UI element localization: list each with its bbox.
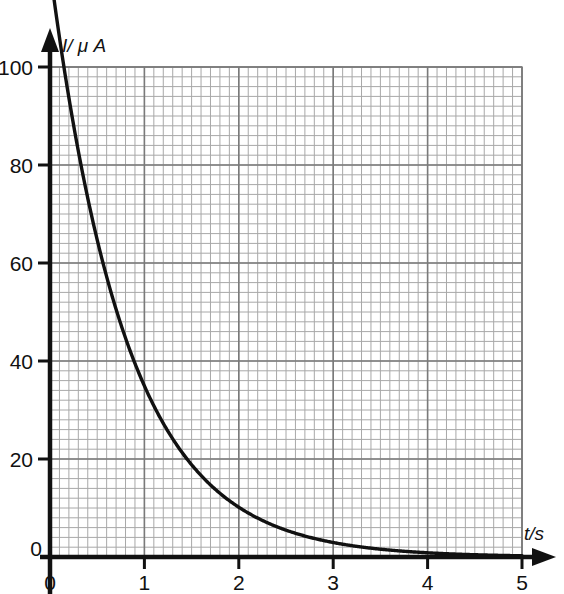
y-origin-label: 0 [30, 537, 42, 560]
exponential-decay-chart: 20406080100 012345 0 I/ μ A t/s [0, 0, 564, 594]
y-tick-labels: 20406080100 [0, 56, 33, 471]
y-tick-label: 60 [10, 252, 33, 275]
x-tick-labels: 012345 [44, 571, 528, 594]
y-tick-label: 20 [10, 448, 33, 471]
x-tick-label: 5 [516, 571, 528, 594]
x-tick-label: 3 [327, 571, 339, 594]
graph-figure: 20406080100 012345 0 I/ μ A t/s [0, 0, 564, 594]
y-tick-label: 40 [10, 350, 33, 373]
x-axis-arrowhead [532, 548, 556, 566]
y-tick-label: 80 [10, 154, 33, 177]
x-tick-label: 4 [422, 571, 434, 594]
x-axis-title: t/s [524, 523, 545, 544]
x-tick-label: 0 [44, 571, 56, 594]
y-tick-label: 100 [0, 56, 33, 79]
y-axis-title: I/ μ A [62, 35, 106, 56]
y-axis-arrowhead [41, 28, 59, 52]
x-tick-label: 2 [233, 571, 245, 594]
x-tick-label: 1 [139, 571, 151, 594]
